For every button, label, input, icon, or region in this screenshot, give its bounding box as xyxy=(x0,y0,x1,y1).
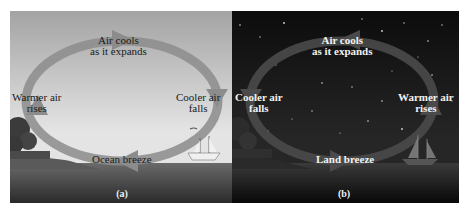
panel-a-sea-breeze: Air cools as it expands Warmer air rises… xyxy=(10,11,232,203)
caption-a: (a) xyxy=(102,188,142,199)
label-air-cools-b: Air cools as it expands xyxy=(312,35,373,57)
label-line: rises xyxy=(398,103,454,114)
label-cooler-air-falls: Cooler air falls xyxy=(176,92,220,114)
label-line: rises xyxy=(12,103,62,114)
label-warmer-air-rises: Warmer air rises xyxy=(12,92,62,114)
label-line: as it expands xyxy=(312,46,373,57)
label-ocean-breeze: Ocean breeze xyxy=(92,154,152,165)
label-line: falls xyxy=(176,103,220,114)
label-air-cools-a: Air cools as it expands xyxy=(90,35,147,57)
panel-b-land-breeze: Air cools as it expands Cooler air falls… xyxy=(232,11,459,203)
label-line: as it expands xyxy=(90,46,147,57)
caption-b: (b) xyxy=(324,188,364,199)
label-land-breeze: Land breeze xyxy=(316,154,374,165)
label-cooler-air-falls: Cooler air falls xyxy=(235,92,283,114)
label-line: falls xyxy=(235,103,283,114)
label-warmer-air-rises: Warmer air rises xyxy=(398,92,454,114)
